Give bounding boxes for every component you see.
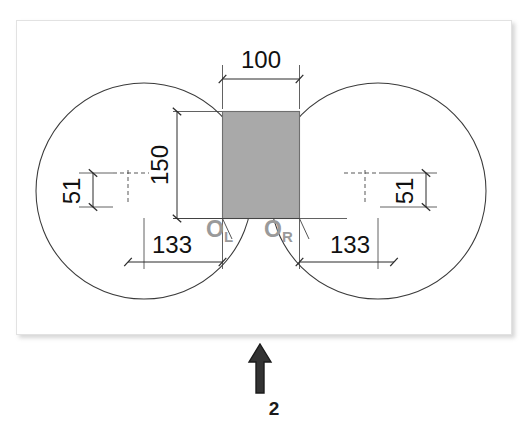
dimension-51-right-text: 51 xyxy=(391,178,418,205)
centerline-mark-left xyxy=(113,170,149,204)
dimension-150-text: 150 xyxy=(146,145,173,185)
leader-right xyxy=(300,219,310,240)
origin-label-left: O L xyxy=(206,216,233,245)
dimension-133-right-text: 133 xyxy=(330,231,370,258)
dimension-51-left-text: 51 xyxy=(58,178,85,205)
dimension-133-left-text: 133 xyxy=(152,231,192,258)
dimension-133-right: 133 xyxy=(300,218,395,269)
center-rectangle xyxy=(223,112,300,219)
origin-label-right-base: O xyxy=(264,216,282,242)
callout-arrow-wrapper xyxy=(243,343,277,399)
origin-label-left-base: O xyxy=(206,216,224,242)
dimension-51-left: 51 xyxy=(58,170,149,207)
origin-label-right-subscript: R xyxy=(282,228,293,245)
dimension-150-vertical: 150 xyxy=(146,112,177,219)
dimension-51-right: 51 xyxy=(344,170,437,207)
drawing-panel: 100 150 51 xyxy=(16,20,512,335)
centerline-mark-right xyxy=(344,170,380,204)
up-arrow-icon xyxy=(243,343,277,395)
figure-root: 100 150 51 xyxy=(0,0,530,438)
origin-label-left-subscript: L xyxy=(224,228,233,245)
origin-label-right: O R xyxy=(264,216,293,245)
figure-number-label: 2 xyxy=(9,398,530,420)
dimension-100-top: 100 xyxy=(223,46,300,79)
technical-drawing-canvas: 100 150 51 xyxy=(17,21,511,334)
dimension-100-text: 100 xyxy=(241,46,281,73)
bottom-annotation xyxy=(0,335,530,438)
